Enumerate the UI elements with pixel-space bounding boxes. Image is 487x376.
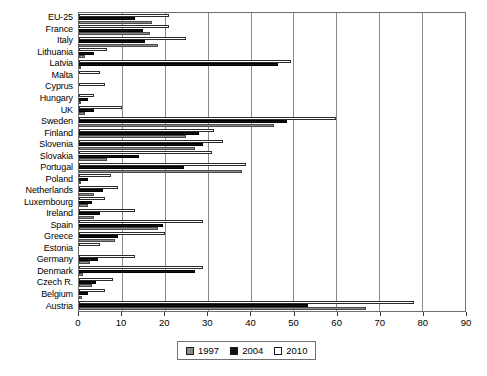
- category-label: Italy: [0, 35, 76, 47]
- category-axis-labels: EU-25FranceItalyLithuaniaLatviaMaltaCypr…: [0, 12, 76, 312]
- legend-entry-1997[interactable]: 1997: [186, 345, 219, 356]
- bar-1997: [79, 307, 366, 310]
- axis-tick: [337, 312, 338, 316]
- bar-1997: [79, 135, 186, 138]
- bar-row: [79, 116, 465, 127]
- axis-tick-label: 20: [159, 317, 170, 328]
- axis-tick: [78, 312, 79, 316]
- category-label: Hungary: [0, 93, 76, 105]
- bar-1997: [79, 227, 158, 230]
- category-label: Spain: [0, 220, 76, 232]
- bar-1997: [79, 170, 242, 173]
- axis-tick: [164, 312, 165, 316]
- legend-entry-2004[interactable]: 2004: [230, 345, 263, 356]
- category-label: Denmark: [0, 266, 76, 278]
- category-label: Luxembourg: [0, 197, 76, 209]
- bar-1997: [79, 158, 107, 161]
- category-label: Portugal: [0, 162, 76, 174]
- bar-row: [79, 70, 465, 81]
- axis-tick: [121, 312, 122, 316]
- bar-1997: [79, 181, 81, 184]
- axis-tick: [207, 312, 208, 316]
- category-label: Cyprus: [0, 81, 76, 93]
- bar-1997: [79, 239, 115, 242]
- category-label: Malta: [0, 70, 76, 82]
- bar-row: [79, 59, 465, 70]
- bar-2004: [79, 270, 195, 273]
- legend-swatch-icon: [274, 347, 282, 355]
- bar-row: [79, 139, 465, 150]
- legend-label: 2004: [242, 345, 263, 356]
- category-label: UK: [0, 104, 76, 116]
- legend-swatch-icon: [186, 347, 194, 355]
- bar-row: [79, 82, 465, 93]
- category-label: Estonia: [0, 243, 76, 255]
- bar-row: [79, 151, 465, 162]
- axis-tick: [294, 312, 295, 316]
- axis-tick: [380, 312, 381, 316]
- bar-row: [79, 105, 465, 116]
- chart-legend: 199720042010: [177, 341, 316, 360]
- bar-rows: [79, 13, 465, 311]
- bar-row: [79, 219, 465, 230]
- bar-1997: [79, 55, 85, 58]
- bar-2004: [79, 63, 278, 66]
- category-label: Lithuania: [0, 47, 76, 59]
- category-label: Greece: [0, 231, 76, 243]
- bar-row: [79, 185, 465, 196]
- category-label: Slovenia: [0, 139, 76, 151]
- category-label: Czech R.: [0, 277, 76, 289]
- axis-tick-label: 80: [418, 317, 429, 328]
- axis-tick: [466, 312, 467, 316]
- axis-tick-label: 90: [461, 317, 472, 328]
- axis-tick-label: 30: [202, 317, 213, 328]
- bar-row: [79, 47, 465, 58]
- bar-2010: [79, 83, 105, 86]
- bar-row: [79, 36, 465, 47]
- category-label: Netherlands: [0, 185, 76, 197]
- category-label: Poland: [0, 173, 76, 185]
- bar-1997: [79, 204, 88, 207]
- bar-row: [79, 174, 465, 185]
- category-label: Germany: [0, 254, 76, 266]
- category-label: Slovakia: [0, 150, 76, 162]
- bar-1997: [79, 66, 81, 69]
- category-label: EU-25: [0, 12, 76, 24]
- bar-1997: [79, 261, 90, 264]
- bar-row: [79, 13, 465, 24]
- bar-1997: [79, 32, 150, 35]
- bar-row: [79, 208, 465, 219]
- category-label: Austria: [0, 300, 76, 312]
- bar-1997: [79, 284, 92, 287]
- axis-tick-label: 70: [374, 317, 385, 328]
- axis-tick-label: 40: [245, 317, 256, 328]
- axis-tick-label: 50: [288, 317, 299, 328]
- bar-row: [79, 162, 465, 173]
- bar-1997: [79, 273, 83, 276]
- legend-entry-2010[interactable]: 2010: [274, 345, 307, 356]
- value-axis: 0102030405060708090: [78, 312, 466, 330]
- axis-tick-label: 0: [75, 317, 80, 328]
- chart-figure: EU-25FranceItalyLithuaniaLatviaMaltaCypr…: [0, 0, 487, 376]
- bar-1997: [79, 44, 158, 47]
- bar-row: [79, 300, 465, 311]
- bar-row: [79, 265, 465, 276]
- bar-row: [79, 231, 465, 242]
- bar-1997: [79, 21, 152, 24]
- bar-2010: [79, 71, 100, 74]
- bar-row: [79, 277, 465, 288]
- bar-1997: [79, 296, 82, 299]
- category-label: Sweden: [0, 116, 76, 128]
- bar-row: [79, 254, 465, 265]
- plot-area: [78, 12, 466, 312]
- axis-tick: [250, 312, 251, 316]
- axis-tick-label: 10: [116, 317, 127, 328]
- bar-1997: [79, 147, 195, 150]
- bar-1997: [79, 124, 274, 127]
- category-label: France: [0, 24, 76, 36]
- axis-tick: [423, 312, 424, 316]
- category-label: Latvia: [0, 58, 76, 70]
- bar-row: [79, 288, 465, 299]
- bar-1997: [79, 112, 85, 115]
- bar-row: [79, 242, 465, 253]
